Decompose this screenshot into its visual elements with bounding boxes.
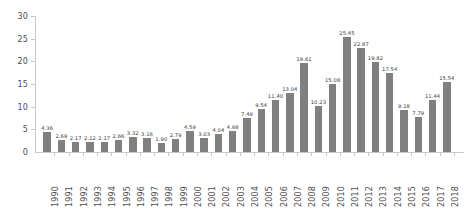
bar-group[interactable]: 4.68 (229, 131, 236, 152)
bar-rect[interactable] (286, 93, 293, 152)
bar-chart: 051015202530 4.3619902.6919912.1719922.1… (0, 0, 464, 213)
x-tick-label: 1992 (80, 186, 89, 207)
y-tick-mark (31, 84, 35, 85)
bar-rect[interactable] (229, 131, 236, 152)
x-tick-mark (383, 153, 384, 156)
bar-value-label: 4.36 (41, 125, 53, 131)
bar-group[interactable]: 7.79 (415, 117, 422, 152)
bar-rect[interactable] (101, 142, 108, 152)
bar-rect[interactable] (129, 137, 136, 152)
bar-value-label: 22.87 (354, 41, 369, 47)
bar-rect[interactable] (300, 63, 307, 152)
bar-rect[interactable] (115, 140, 122, 152)
x-tick-label: 2009 (322, 186, 331, 207)
x-tick-label: 1991 (65, 186, 74, 207)
x-tick-mark (454, 153, 455, 156)
bar-rect[interactable] (172, 139, 179, 152)
bar-rect[interactable] (386, 73, 393, 153)
x-tick-mark (397, 153, 398, 156)
bar-group[interactable]: 1.90 (158, 143, 165, 152)
x-tick-label: 2001 (208, 186, 217, 207)
bar-rect[interactable] (43, 132, 50, 152)
bar-rect[interactable] (357, 48, 364, 152)
bar-rect[interactable] (372, 62, 379, 152)
bar-value-label: 3.32 (127, 130, 139, 136)
x-tick-label: 2013 (379, 186, 388, 207)
bar-rect[interactable] (72, 142, 79, 152)
bar-group[interactable]: 19.61 (300, 63, 307, 152)
bar-group[interactable]: 2.79 (172, 139, 179, 152)
bar-rect[interactable] (315, 106, 322, 152)
bar-group[interactable]: 2.17 (101, 142, 108, 152)
bar-value-label: 10.23 (311, 99, 326, 105)
bar-group[interactable]: 25.45 (343, 37, 350, 152)
bar-value-label: 1.90 (155, 136, 167, 142)
x-tick-mark (368, 153, 369, 156)
x-tick-mark (326, 153, 327, 156)
bar-group[interactable]: 3.16 (143, 138, 150, 152)
bar-group[interactable]: 2.66 (115, 140, 122, 152)
bar-rect[interactable] (258, 109, 265, 152)
bar-group[interactable]: 9.18 (400, 110, 407, 152)
bar-value-label: 19.61 (296, 56, 311, 62)
x-tick-label: 2014 (394, 186, 403, 207)
bar-rect[interactable] (243, 118, 250, 152)
bar-rect[interactable] (58, 140, 65, 152)
x-tick-label: 2002 (222, 186, 231, 207)
bar-value-label: 4.59 (184, 124, 196, 130)
bar-group[interactable]: 4.36 (43, 132, 50, 152)
bar-group[interactable]: 2.17 (72, 142, 79, 152)
bar-rect[interactable] (343, 37, 350, 152)
x-tick-mark (97, 153, 98, 156)
x-tick-mark (297, 153, 298, 156)
bar-group[interactable]: 17.54 (386, 73, 393, 153)
x-tick-label: 1997 (151, 186, 160, 207)
bar-group[interactable]: 10.23 (315, 106, 322, 152)
bar-group[interactable]: 19.82 (372, 62, 379, 152)
bar-group[interactable]: 7.49 (243, 118, 250, 152)
x-tick-mark (268, 153, 269, 156)
bar-rect[interactable] (143, 138, 150, 152)
bar-rect[interactable] (86, 142, 93, 152)
bar-group[interactable]: 4.59 (186, 131, 193, 152)
bar-rect[interactable] (215, 134, 222, 152)
bar-group[interactable]: 3.32 (129, 137, 136, 152)
y-tick-mark (31, 107, 35, 108)
bar-value-label: 2.66 (113, 133, 125, 139)
bar-rect[interactable] (400, 110, 407, 152)
bar-rect[interactable] (200, 138, 207, 152)
bar-group[interactable]: 9.54 (258, 109, 265, 152)
x-tick-label: 2018 (451, 186, 460, 207)
bar-group[interactable]: 15.54 (443, 82, 450, 152)
bar-rect[interactable] (443, 82, 450, 152)
bar-group[interactable]: 13.04 (286, 93, 293, 152)
bar-value-label: 9.18 (398, 103, 410, 109)
bar-rect[interactable] (415, 117, 422, 152)
bar-group[interactable]: 3.03 (200, 138, 207, 152)
bar-rect[interactable] (429, 100, 436, 152)
bar-value-label: 2.12 (84, 135, 96, 141)
x-tick-mark (183, 153, 184, 156)
y-tick-label: 20 (17, 57, 28, 66)
x-tick-label: 2011 (351, 186, 360, 207)
y-tick-label: 25 (17, 34, 28, 43)
bar-group[interactable]: 11.44 (429, 100, 436, 152)
bar-value-label: 17.54 (382, 66, 397, 72)
x-tick-mark (111, 153, 112, 156)
x-tick-mark (168, 153, 169, 156)
y-tick-label: 15 (17, 80, 28, 89)
bar-group[interactable]: 15.08 (329, 84, 336, 152)
bar-rect[interactable] (186, 131, 193, 152)
x-tick-label: 1994 (108, 186, 117, 207)
bar-group[interactable]: 22.87 (357, 48, 364, 152)
bar-rect[interactable] (329, 84, 336, 152)
bar-value-label: 2.69 (55, 133, 67, 139)
bar-rect[interactable] (158, 143, 165, 152)
bar-group[interactable]: 2.69 (58, 140, 65, 152)
bar-rect[interactable] (272, 100, 279, 152)
bar-group[interactable]: 2.12 (86, 142, 93, 152)
bar-group[interactable]: 11.40 (272, 100, 279, 152)
bar-group[interactable]: 4.04 (215, 134, 222, 152)
bar-value-label: 9.54 (255, 102, 267, 108)
x-tick-label: 2016 (422, 186, 431, 207)
